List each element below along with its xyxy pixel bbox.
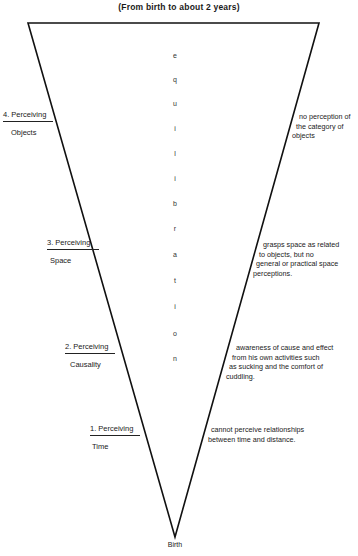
stage-2-label: 2. Perceiving Causality — [65, 342, 115, 369]
eq-letter: e — [170, 52, 180, 59]
stage-number-label: 3. Perceiving — [47, 238, 99, 250]
eq-letter: q — [170, 76, 180, 83]
eq-letter: i — [170, 303, 180, 310]
stage-4-description: no perception of the category of objects — [296, 112, 351, 141]
stage-domain: Time — [90, 442, 140, 451]
eq-letter: i — [170, 125, 180, 132]
eq-letter: o — [170, 330, 180, 337]
stage-1-description: cannot perceive relationships between ti… — [211, 425, 304, 444]
stage-domain: Objects — [3, 128, 53, 137]
eq-letter: i — [170, 175, 180, 182]
stage-domain: Space — [47, 256, 99, 265]
stage-number-label: 2. Perceiving — [65, 342, 115, 354]
eq-letter: l — [170, 150, 180, 157]
eq-letter: r — [170, 225, 180, 232]
stage-3-description: grasps space as related to objects, but … — [262, 240, 339, 278]
apex-label-birth: Birth — [163, 541, 187, 548]
eq-letter: t — [170, 277, 180, 284]
eq-letter: a — [170, 251, 180, 258]
stage-domain: Causality — [65, 360, 115, 369]
eq-letter: u — [170, 100, 180, 107]
eq-letter: n — [170, 355, 180, 362]
stage-3-label: 3. Perceiving Space — [47, 238, 99, 265]
eq-letter: b — [170, 200, 180, 207]
stage-4-label: 4. Perceiving Objects — [3, 110, 53, 137]
stage-number-label: 4. Perceiving — [3, 110, 53, 122]
stage-2-description: awareness of cause and effect from his o… — [236, 343, 333, 381]
stage-number-label: 1. Perceiving — [90, 424, 140, 436]
stage-1-label: 1. Perceiving Time — [90, 424, 140, 451]
